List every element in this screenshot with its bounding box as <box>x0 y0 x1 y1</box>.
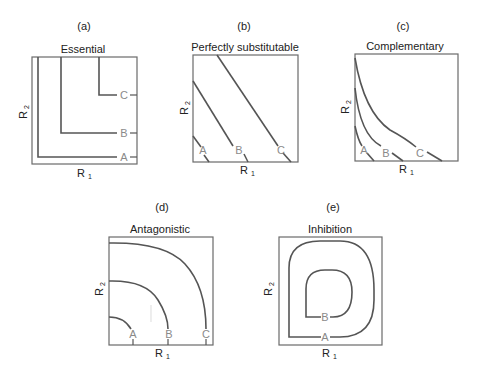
x-axis-label: R 1 <box>322 347 337 360</box>
svg-text:R: R <box>155 347 163 359</box>
x-axis-label: R 1 <box>155 347 170 360</box>
svg-text:R: R <box>17 111 29 119</box>
panel-title: Essential <box>61 43 106 55</box>
curve-label-c: C <box>120 89 128 101</box>
panel-d: (d) Antagonistic A B C R 1 R 2 <box>93 201 213 360</box>
svg-text:2: 2 <box>345 100 352 104</box>
svg-text:R: R <box>339 106 351 114</box>
panel-title: Inhibition <box>308 223 352 235</box>
svg-text:2: 2 <box>99 282 106 286</box>
isocline-c <box>427 152 442 161</box>
x-axis-label: R 1 <box>399 163 414 176</box>
curve-label-b: B <box>120 127 127 139</box>
svg-text:R: R <box>399 163 407 175</box>
panel-id: (b) <box>237 20 250 32</box>
svg-text:R: R <box>77 167 85 179</box>
isocline-b <box>392 153 403 161</box>
curve-label-a: A <box>360 144 368 156</box>
panel-id: (e) <box>326 201 339 213</box>
y-axis-label: R 2 <box>17 105 30 119</box>
curve-label-a: A <box>120 151 128 163</box>
curve-label-a: A <box>129 328 137 340</box>
curve-label-b: B <box>382 147 389 159</box>
svg-text:1: 1 <box>166 353 170 360</box>
svg-text:2: 2 <box>184 101 191 105</box>
isocline-a <box>289 241 374 337</box>
curve-label-c: C <box>202 328 210 340</box>
panel-id: (c) <box>397 20 410 32</box>
isocline-b <box>109 281 168 329</box>
isocline-a <box>38 57 117 157</box>
plot-frame <box>32 57 137 164</box>
panel-title: Antagonistic <box>130 223 190 235</box>
x-axis-label: R 1 <box>240 164 255 177</box>
y-axis-label: R 2 <box>93 282 106 296</box>
panel-id: (a) <box>77 20 90 32</box>
isocline-a <box>204 155 209 162</box>
svg-text:2: 2 <box>23 105 30 109</box>
curve-label-b: B <box>165 328 172 340</box>
isocline-b <box>193 81 233 146</box>
svg-text:R: R <box>240 164 248 176</box>
svg-text:1: 1 <box>88 173 92 180</box>
isocline-c <box>355 58 416 147</box>
isocline-a <box>355 126 362 146</box>
plot-frame <box>279 237 382 345</box>
isocline-a <box>109 317 131 329</box>
panel-c: (c) Complementary A B C R 1 R 2 <box>339 20 458 176</box>
svg-text:R: R <box>178 107 190 115</box>
plot-frame <box>109 237 213 345</box>
svg-text:2: 2 <box>268 282 275 286</box>
curve-label-a: A <box>199 144 207 156</box>
isocline-c <box>99 57 117 95</box>
y-axis-label: R 2 <box>262 282 275 296</box>
isocline-c <box>109 243 206 329</box>
resource-isocline-figure: (a) Essential A B C R 1 R 2 (b) Perfectl… <box>0 0 481 375</box>
panel-title: Complementary <box>366 40 444 52</box>
svg-text:1: 1 <box>251 170 255 177</box>
curve-label-b: B <box>235 144 242 156</box>
panel-title: Perfectly substitutable <box>191 41 299 53</box>
x-axis-label: R 1 <box>77 167 92 180</box>
panel-id: (d) <box>155 201 168 213</box>
isocline-b <box>244 154 248 162</box>
isocline-b <box>306 270 352 317</box>
y-axis-label: R 2 <box>339 100 352 114</box>
svg-text:1: 1 <box>333 353 337 360</box>
y-axis-label: R 2 <box>178 101 191 115</box>
curve-label-a: A <box>321 331 329 343</box>
curve-label-c: C <box>416 147 424 159</box>
isocline-a <box>367 153 374 161</box>
svg-text:1: 1 <box>410 169 414 176</box>
isocline-c <box>217 55 278 146</box>
svg-text:R: R <box>93 288 105 296</box>
curve-label-c: C <box>277 144 285 156</box>
panel-a: (a) Essential A B C R 1 R 2 <box>17 20 137 180</box>
svg-text:R: R <box>322 347 330 359</box>
panel-e: (e) Inhibition A B R 1 R 2 <box>262 201 382 360</box>
svg-text:R: R <box>262 288 274 296</box>
panel-b: (b) Perfectly substitutable A B C R 1 R … <box>178 20 299 177</box>
curve-label-b: B <box>321 311 328 323</box>
